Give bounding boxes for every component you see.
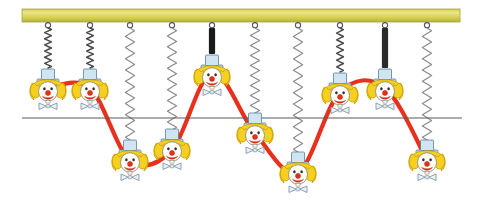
spring-10-coils (422, 28, 431, 140)
spring-1 (45, 22, 52, 68)
spring-5-hook-icon (209, 23, 214, 28)
spring-5 (209, 22, 215, 54)
spring-6 (250, 22, 259, 113)
spring-3-coils (125, 28, 134, 140)
spring-7-coils (293, 28, 302, 152)
spring-5-coils (209, 28, 215, 54)
spring-10 (422, 22, 431, 140)
spring-7 (293, 22, 302, 152)
support-bar-group (22, 9, 460, 22)
spring-2-coils (87, 28, 94, 68)
spring-8-coils (337, 28, 344, 72)
spring-10-hook-icon (424, 23, 429, 28)
spring-2 (87, 22, 94, 68)
spring-9 (382, 22, 388, 68)
clowns-group (30, 55, 445, 193)
clown-4 (154, 129, 190, 170)
clown-8 (322, 73, 358, 114)
spring-4-hook-icon (169, 23, 174, 28)
support-bar (22, 9, 460, 22)
spring-8 (337, 22, 344, 72)
spring-2-hook-icon (87, 23, 92, 28)
spring-4 (167, 22, 176, 130)
support-bar-highlight (24, 11, 458, 14)
clown-10 (409, 140, 445, 181)
spring-9-hook-icon (382, 23, 387, 28)
clown-3 (112, 140, 148, 181)
spring-1-coils (45, 28, 52, 68)
spring-9-coils (382, 28, 388, 68)
spring-1-hook-icon (45, 23, 50, 28)
spring-8-hook-icon (337, 23, 342, 28)
spring-3 (125, 22, 134, 140)
spring-6-coils (250, 28, 259, 113)
spring-6-hook-icon (252, 23, 257, 28)
spring-4-coils (167, 28, 176, 130)
clown-1 (30, 69, 66, 110)
spring-7-hook-icon (295, 23, 300, 28)
clown-wave-diagram (0, 0, 482, 209)
illustration-canvas (0, 0, 482, 209)
spring-3-hook-icon (127, 23, 132, 28)
